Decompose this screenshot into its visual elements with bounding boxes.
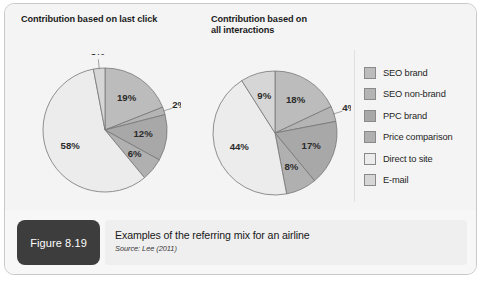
legend-item: Direct to site [364, 148, 477, 170]
figure-number-badge: Figure 8.19 [17, 220, 100, 265]
legend-item-label: E-mail [383, 175, 408, 185]
pie-slice-label: 8% [284, 161, 298, 172]
pie-slice-label: 12% [133, 128, 153, 139]
legend-swatch-icon [364, 67, 376, 79]
pie-slice-label: 17% [302, 140, 322, 151]
legend-divider [354, 50, 355, 202]
label-leader-line [98, 59, 99, 69]
legend-item: Price comparison [364, 127, 477, 149]
caption-panel: Examples of the referring mix for an air… [105, 220, 467, 265]
pie-slice-label: 58% [61, 140, 81, 151]
pie-slice-label: 9% [257, 90, 271, 101]
legend-swatch-icon [364, 153, 376, 165]
pie-slice-label: 18% [286, 94, 306, 105]
pie-chart-1-title: Contribution based on last click [21, 14, 211, 25]
pie-slice-label: 4% [342, 102, 351, 113]
legend-item-label: PPC brand [383, 111, 427, 121]
pie-slice-label: 2% [172, 99, 181, 110]
legend-item: PPC brand [364, 105, 477, 127]
legend-item-label: SEO non-brand [383, 89, 446, 99]
legend-item: SEO non-brand [364, 84, 477, 106]
label-leader-line [163, 108, 173, 111]
legend-item: SEO brand [364, 62, 477, 84]
legend-item: E-mail [364, 170, 477, 192]
label-leader-line [333, 111, 343, 114]
pie-chart-2-title: Contribution based on all interactions [211, 14, 371, 36]
pie-slice-label: 19% [117, 92, 137, 103]
legend-swatch-icon [364, 88, 376, 100]
legend-item-label: SEO brand [383, 68, 428, 78]
pie-slice-label: 6% [128, 148, 142, 159]
pie-chart-last-click: 19%2%12%6%58%3% [29, 54, 181, 206]
legend-swatch-icon [364, 110, 376, 122]
pie-chart-all-interactions: 18%4%17%8%44%9% [199, 57, 351, 209]
figure-number-label: Figure 8.19 [30, 237, 87, 249]
caption-title: Examples of the referring mix for an air… [115, 229, 310, 241]
legend-item-label: Direct to site [383, 154, 433, 164]
chart-area: Contribution based on last click Contrib… [5, 4, 477, 210]
pie-chart-1-title-line1: Contribution based on last click [21, 14, 157, 24]
pie-chart-2-title-line2: all interactions [211, 25, 274, 35]
caption-source: Source: Lee (2011) [115, 244, 177, 253]
figure-frame: Contribution based on last click Contrib… [4, 3, 477, 275]
legend: SEO brandSEO non-brandPPC brandPrice com… [364, 62, 477, 191]
legend-swatch-icon [364, 131, 376, 143]
pie-slice-label: 3% [91, 54, 105, 57]
legend-swatch-icon [364, 174, 376, 186]
pie-chart-2-title-line1: Contribution based on [211, 14, 307, 24]
pie-slice-label: 44% [230, 141, 250, 152]
caption-bar: Figure 8.19 Examples of the referring mi… [5, 210, 477, 275]
legend-item-label: Price comparison [383, 132, 452, 142]
